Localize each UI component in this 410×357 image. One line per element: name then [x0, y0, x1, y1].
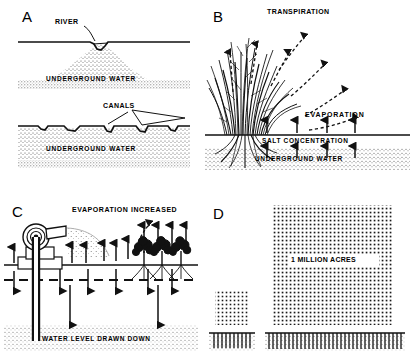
panel-b-transpiration-label: TRANSPIRATION	[267, 8, 330, 15]
panel-b-underground-water-label: UNDERGROUND WATER	[255, 155, 343, 162]
panel-a-river-label: RIVER	[55, 18, 79, 25]
panel-d-graphic	[205, 195, 410, 357]
panel-d: D	[205, 195, 410, 357]
panel-c: C	[0, 195, 205, 357]
panel-a: A RIVER	[0, 0, 205, 195]
panel-c-graphic	[0, 195, 205, 357]
panel-b-evaporation-label: EVAPORATION	[305, 111, 365, 118]
panel-d-million-acres-label: 1 MILLION ACRES	[291, 256, 356, 263]
panel-a-underground-water-top: UNDERGROUND WATER	[46, 75, 136, 82]
panel-b: B	[205, 0, 410, 195]
panel-a-underground-water-bottom: UNDERGROUND WATER	[46, 145, 136, 152]
panel-a-canals-label: CANALS	[103, 102, 135, 109]
panel-c-evaporation-increased-label: EVAPORATION INCREASED	[72, 206, 177, 213]
panel-b-graphic	[205, 0, 410, 195]
panel-a-graphic	[0, 0, 205, 195]
panel-c-water-level-drawn-down-label: WATER LEVEL DRAWN DOWN	[42, 335, 151, 342]
panel-b-salt-concentration-label: SALT CONCENTRATION	[262, 137, 349, 144]
